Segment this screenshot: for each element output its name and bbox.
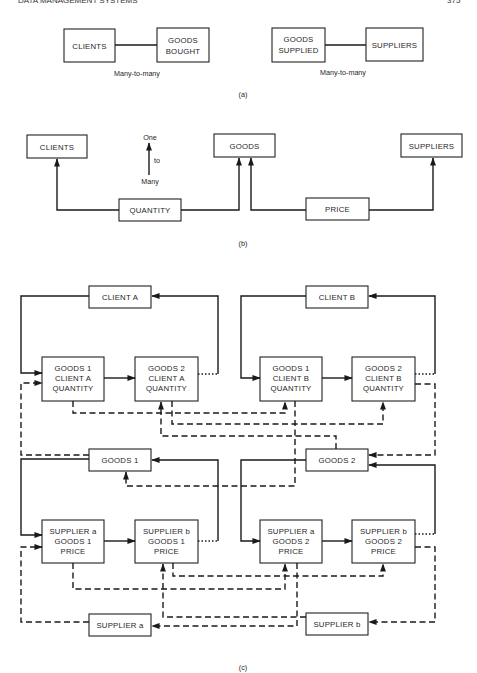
- svg-text:QUANTITY: QUANTITY: [270, 384, 312, 393]
- svg-text:SUPPLIER a: SUPPLIER a: [96, 621, 144, 630]
- record-sa-g2-price: SUPPLIER a GOODS 2 PRICE: [260, 520, 322, 563]
- svg-text:GOODS: GOODS: [168, 36, 198, 45]
- record-sb-g1-price: SUPPLIER b GOODS 1 PRICE: [135, 520, 198, 563]
- box-goods-b: GOODS: [214, 134, 275, 157]
- svg-text:CLIENTS: CLIENTS: [40, 143, 74, 152]
- record-sb-g2-price: SUPPLIER b GOODS 2 PRICE: [352, 520, 415, 563]
- entity-goods-supplied: GOODS SUPPLIED: [272, 28, 325, 62]
- chain-goods-1-return: [126, 401, 295, 486]
- chain-goods-2-first: [161, 402, 336, 449]
- chain-supplier-b-next: [173, 563, 383, 576]
- svg-text:CLIENT A: CLIENT A: [148, 374, 185, 383]
- record-client-a: CLIENT A: [89, 286, 151, 308]
- svg-text:GOODS 2: GOODS 2: [319, 456, 356, 465]
- link-quantity-goods: [181, 158, 239, 210]
- svg-text:GOODS 1: GOODS 1: [55, 537, 92, 546]
- svg-text:QUANTITY: QUANTITY: [146, 384, 188, 393]
- figure-b: CLIENTS GOODS SUPPLIERS One to Many QUAN…: [27, 133, 462, 248]
- record-g1-cb-qty: GOODS 1 CLIENT B QUANTITY: [260, 357, 322, 401]
- chain-goods-1-next: [73, 401, 285, 413]
- svg-text:GOODS 2: GOODS 2: [148, 364, 185, 373]
- legend-many: Many: [141, 177, 159, 186]
- record-sa-g1-price: SUPPLIER a GOODS 1 PRICE: [42, 520, 104, 563]
- svg-text:PRICE: PRICE: [279, 547, 304, 556]
- record-supplier-a: SUPPLIER a: [89, 614, 151, 636]
- svg-text:CLIENT B: CLIENT B: [273, 374, 310, 383]
- record-supplier-b: SUPPLIER b: [306, 613, 368, 635]
- svg-text:GOODS 1: GOODS 1: [273, 364, 310, 373]
- record-g1-ca-qty: GOODS 1 CLIENT A QUANTITY: [42, 357, 104, 401]
- record-goods-2: GOODS 2: [306, 449, 368, 471]
- cardinality-legend: One to Many: [141, 133, 160, 186]
- svg-text:SUPPLIER a: SUPPLIER a: [49, 527, 97, 536]
- link-price-goods: [251, 158, 306, 210]
- svg-text:BOUGHT: BOUGHT: [166, 47, 201, 56]
- page-number: 375: [447, 0, 461, 5]
- svg-text:CLIENT A: CLIENT A: [55, 374, 92, 383]
- figure-c: CLIENT A CLIENT B GOODS 1 CLIENT A QUANT…: [21, 286, 435, 672]
- svg-text:GOODS: GOODS: [229, 142, 259, 151]
- box-price-b: PRICE: [306, 198, 369, 220]
- caption-c: (c): [239, 663, 247, 672]
- link-price-suppliers: [369, 158, 433, 210]
- caption-a: (a): [239, 90, 248, 99]
- box-clients-b: CLIENTS: [27, 135, 87, 158]
- record-g2-ca-qty: GOODS 2 CLIENT A QUANTITY: [135, 357, 198, 401]
- svg-text:QUANTITY: QUANTITY: [52, 384, 94, 393]
- svg-text:SUPPLIER b: SUPPLIER b: [313, 620, 361, 629]
- svg-text:GOODS 1: GOODS 1: [148, 537, 185, 546]
- svg-text:SUPPLIER b: SUPPLIER b: [360, 527, 408, 536]
- svg-text:CLIENTS: CLIENTS: [72, 42, 106, 51]
- svg-text:CLIENT B: CLIENT B: [319, 293, 356, 302]
- entity-clients-a: CLIENTS: [64, 29, 115, 62]
- record-client-b: CLIENT B: [306, 286, 368, 308]
- svg-text:SUPPLIER b: SUPPLIER b: [143, 527, 191, 536]
- entity-suppliers-a: SUPPLIERS: [366, 28, 423, 61]
- relation-label-right: Many-to-many: [320, 68, 366, 77]
- svg-text:SUPPLIER a: SUPPLIER a: [267, 527, 315, 536]
- svg-text:GOODS 1: GOODS 1: [102, 456, 139, 465]
- svg-text:CLIENT A: CLIENT A: [102, 293, 139, 302]
- page-header: DATA MANAGEMENT SYSTEMS 375: [18, 0, 461, 5]
- figure-canvas: DATA MANAGEMENT SYSTEMS 375 CLIENTS GOOD…: [0, 0, 477, 673]
- entity-goods-bought: GOODS BOUGHT: [157, 28, 209, 62]
- svg-text:GOODS 2: GOODS 2: [365, 364, 402, 373]
- legend-one: One: [143, 133, 157, 142]
- figure-a: CLIENTS GOODS BOUGHT Many-to-many GOODS …: [64, 28, 423, 99]
- svg-text:GOODS 2: GOODS 2: [365, 537, 402, 546]
- svg-text:GOODS 2: GOODS 2: [273, 537, 310, 546]
- chain-supplier-b-first: [163, 564, 306, 617]
- svg-text:PRICE: PRICE: [325, 205, 350, 214]
- svg-text:SUPPLIED: SUPPLIED: [278, 46, 318, 55]
- relation-label-left: Many-to-many: [114, 69, 160, 78]
- svg-text:CLIENT B: CLIENT B: [365, 374, 402, 383]
- svg-text:QUANTITY: QUANTITY: [363, 384, 405, 393]
- running-title: DATA MANAGEMENT SYSTEMS: [18, 0, 138, 5]
- svg-text:SUPPLIERS: SUPPLIERS: [409, 142, 455, 151]
- svg-text:SUPPLIERS: SUPPLIERS: [372, 41, 418, 50]
- record-goods-1: GOODS 1: [89, 449, 151, 471]
- svg-text:PRICE: PRICE: [371, 547, 396, 556]
- link-quantity-clients: [57, 159, 119, 210]
- svg-text:GOODS: GOODS: [283, 35, 313, 44]
- box-suppliers-b: SUPPLIERS: [401, 134, 462, 157]
- svg-text:PRICE: PRICE: [61, 547, 86, 556]
- svg-text:PRICE: PRICE: [154, 547, 179, 556]
- legend-to: to: [154, 156, 160, 165]
- caption-b: (b): [239, 239, 248, 248]
- box-quantity-b: QUANTITY: [119, 199, 181, 221]
- record-g2-cb-qty: GOODS 2 CLIENT B QUANTITY: [352, 357, 415, 401]
- svg-text:GOODS 1: GOODS 1: [55, 364, 92, 373]
- svg-text:QUANTITY: QUANTITY: [129, 206, 171, 215]
